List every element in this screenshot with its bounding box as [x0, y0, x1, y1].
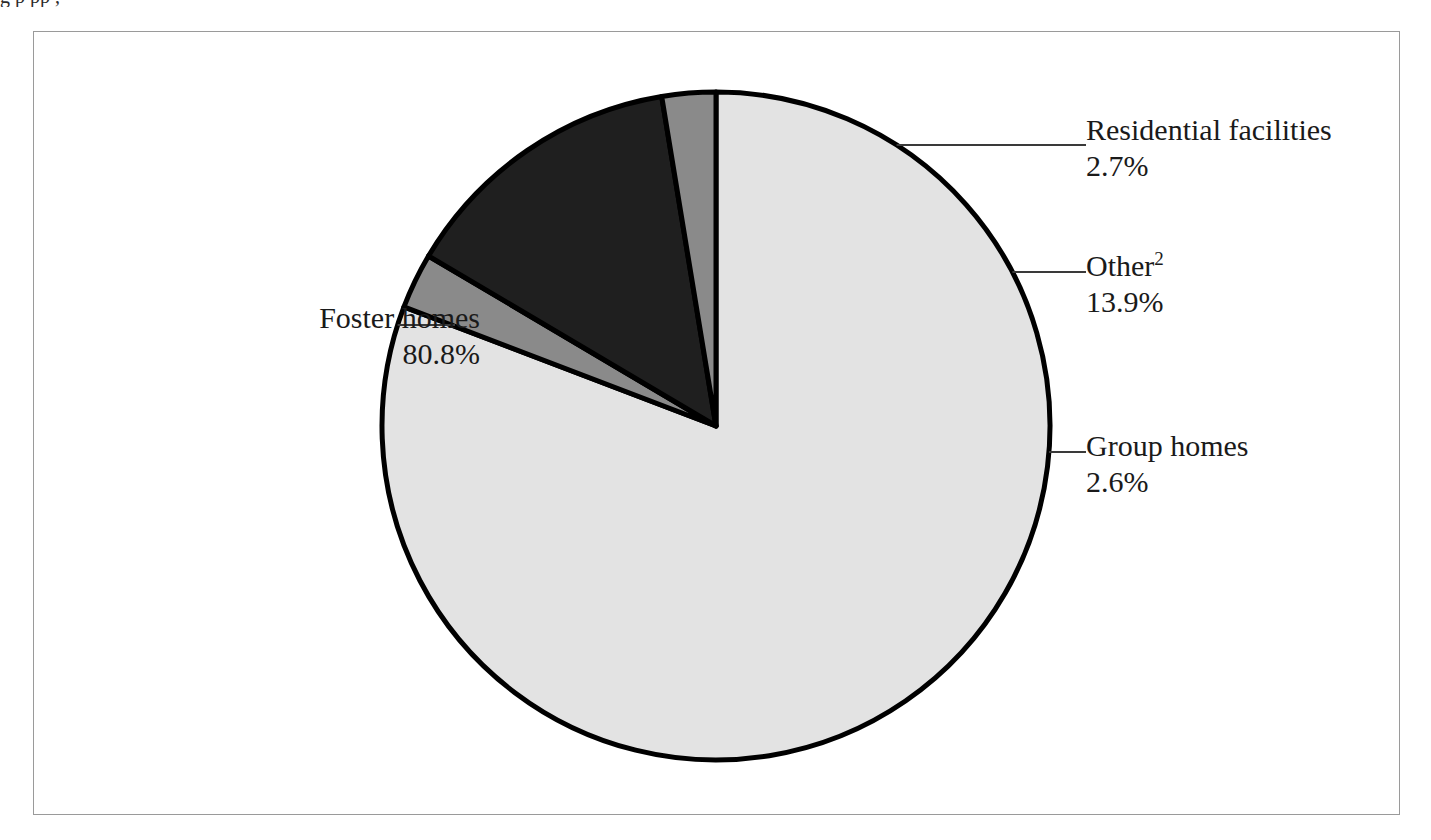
callout-residential-facilities-value: 2.7% [1086, 148, 1332, 184]
figure-page: g p pp , Foster homes 80.8% Residen [0, 0, 1431, 840]
callout-group-homes-value: 2.6% [1086, 464, 1248, 500]
callout-other: Other2 13.9% [1086, 248, 1164, 320]
callout-foster-homes-label: Foster homes [319, 301, 480, 334]
callout-group-homes: Group homes 2.6% [1086, 428, 1248, 500]
callout-residential-facilities-label: Residential facilities [1086, 113, 1332, 146]
pie-slices [382, 92, 1050, 760]
callout-other-value: 13.9% [1086, 284, 1164, 320]
callout-foster-homes-value: 80.8% [150, 336, 480, 372]
callout-other-label: Other [1086, 249, 1154, 282]
callout-group-homes-label: Group homes [1086, 429, 1248, 462]
callout-other-footnote-marker: 2 [1154, 248, 1164, 269]
callout-residential-facilities: Residential facilities 2.7% [1086, 112, 1332, 184]
callout-foster-homes: Foster homes 80.8% [150, 300, 480, 372]
